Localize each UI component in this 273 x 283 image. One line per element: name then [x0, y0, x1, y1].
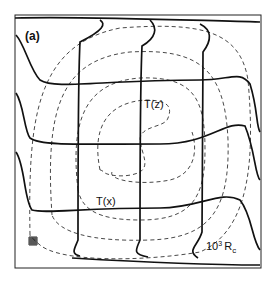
profile-z-1: [74, 20, 103, 256]
horizontal-profile-label: T(x): [96, 196, 116, 207]
vertical-profile-label: T(z): [144, 99, 164, 110]
rayleigh-prefix: 10: [206, 240, 218, 252]
rayleigh-exponent: 3: [218, 240, 222, 247]
convection-cell-figure: (a) T(z) T(x) 103 Rc: [0, 0, 273, 283]
profile-x-3: [16, 152, 260, 250]
rayleigh-number-label: 103 Rc: [206, 241, 236, 255]
panel-label: (a): [25, 30, 40, 42]
profile-z-2: [136, 20, 154, 257]
profile-x-5: [72, 258, 260, 265]
rayleigh-subscript: c: [232, 246, 236, 255]
profile-x-4: [15, 17, 260, 22]
profile-z-3: [193, 24, 210, 258]
streamline-inner: [98, 100, 170, 176]
profile-x-1: [16, 35, 260, 132]
grid-mesh-icon: [29, 237, 37, 245]
vertical-profiles: [74, 20, 209, 258]
streamline-inner-2: [112, 132, 195, 182]
